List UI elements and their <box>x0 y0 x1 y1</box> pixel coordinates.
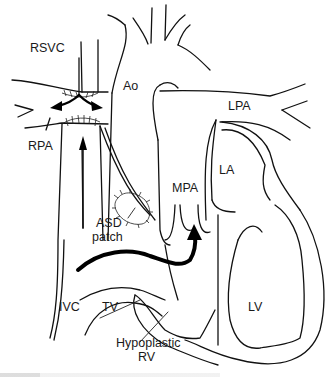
label-rsvc: RSVC <box>30 41 65 55</box>
label-rv: RV <box>138 350 156 364</box>
label-ivc: IVC <box>59 300 80 314</box>
label-lv: LV <box>248 300 263 314</box>
label-hypoplastic: Hypoplastic <box>116 336 181 350</box>
label-ao: Ao <box>123 79 138 93</box>
cropped-caption <box>0 373 220 377</box>
label-tv: TV <box>102 300 119 314</box>
left-ventricle <box>185 205 324 364</box>
label-rpa: RPA <box>28 139 53 153</box>
label-asd: ASD <box>96 216 122 230</box>
heart-diagram: RSVC RPA Ao LPA LA MPA ASD patch IVC TV … <box>0 0 335 379</box>
label-patch: patch <box>92 230 123 244</box>
main-pulmonary-artery <box>158 120 216 300</box>
label-mpa: MPA <box>172 181 199 195</box>
label-lpa: LPA <box>228 99 251 113</box>
label-la: LA <box>219 163 235 177</box>
